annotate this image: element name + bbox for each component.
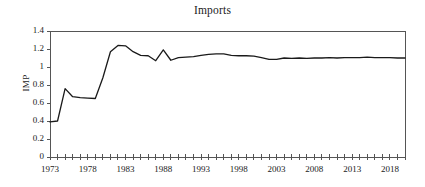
x-tick-label: 2003: [260, 164, 294, 174]
plot-area: [0, 0, 425, 187]
x-tick-label: 2008: [297, 164, 331, 174]
x-tick-label: 1993: [184, 164, 218, 174]
x-tick-label: 1978: [71, 164, 105, 174]
y-tick-label: 1.4: [18, 25, 44, 35]
y-tick-label: 0.8: [18, 79, 44, 89]
data-series-line: [50, 45, 405, 122]
y-tick-label: 1: [18, 61, 44, 71]
x-tick-label: 1983: [109, 164, 143, 174]
x-tick-label: 1988: [146, 164, 180, 174]
x-tick-label: 1998: [222, 164, 256, 174]
y-tick-label: 1.2: [18, 43, 44, 53]
x-tick-label: 1973: [33, 164, 67, 174]
y-tick-label: 0.4: [18, 115, 44, 125]
y-tick-label: 0.2: [18, 133, 44, 143]
x-tick-label: 2013: [335, 164, 369, 174]
imports-line-chart: Imports IMP 1.41.210.80.60.40.20 1973197…: [0, 0, 425, 187]
x-tick-label: 2018: [373, 164, 407, 174]
y-tick-label: 0.6: [18, 97, 44, 107]
y-tick-label: 0: [18, 151, 44, 161]
plot-frame: [50, 31, 405, 157]
